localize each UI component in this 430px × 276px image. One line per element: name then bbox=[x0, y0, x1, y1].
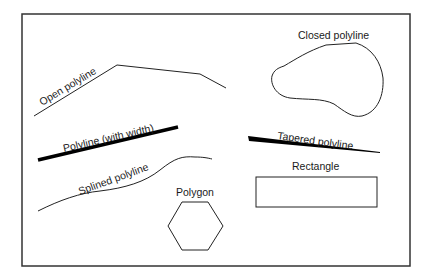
rectangle-shape bbox=[256, 177, 377, 207]
polyline-diagram: Open polyline Closed polyline Polyline (… bbox=[0, 0, 430, 276]
polygon-label: Polygon bbox=[176, 186, 214, 198]
splined-polyline-label: Splined polyline bbox=[77, 160, 150, 196]
polyline-with-width-label: Polyline (with width) bbox=[62, 121, 155, 154]
open-polyline-label: Open polyline bbox=[37, 64, 98, 107]
rectangle-label: Rectangle bbox=[292, 160, 339, 172]
tapered-polyline-label: Tapered polyline bbox=[277, 129, 355, 152]
closed-polyline-label: Closed polyline bbox=[298, 29, 369, 41]
closed-polyline-shape bbox=[272, 43, 383, 116]
splined-polyline-shape bbox=[38, 157, 212, 211]
polygon-shape bbox=[168, 202, 223, 250]
